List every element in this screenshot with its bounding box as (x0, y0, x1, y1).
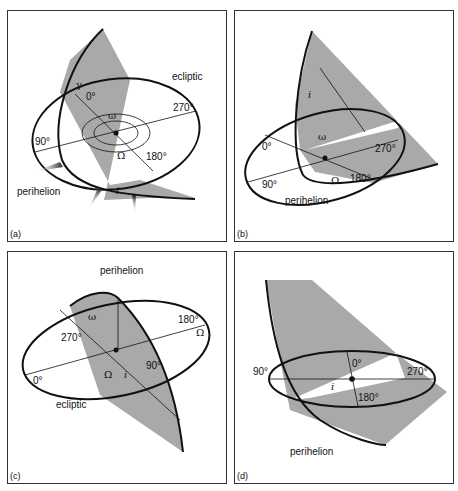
label-Omega-b: Ω (331, 175, 339, 186)
panel-a: ecliptic γ 0° 270° 90° 180° ω Ω i perihe… (8, 11, 227, 242)
label-180deg-c: 180° (178, 314, 199, 325)
panel-c: perihelion 180° 270° 90° 0° ω Ω Ω i ecli… (8, 252, 227, 484)
panel-b: 0° 270° 90° 180° ω Ω i perihelion (b) (234, 11, 453, 242)
label-perihelion-a: perihelion (17, 186, 60, 197)
label-90deg-d: 90° (253, 366, 268, 377)
panel-label-a: (a) (10, 229, 21, 239)
label-0deg-c: 0° (33, 375, 43, 386)
label-90deg-c: 90° (146, 360, 161, 371)
label-gamma-a: γ (76, 79, 82, 90)
label-i-c: i (124, 369, 127, 380)
panel-label-c: (c) (10, 471, 21, 481)
label-90deg-b: 90° (262, 179, 277, 190)
sun-dot-a (114, 131, 119, 136)
panel-label-d: (d) (237, 471, 248, 481)
sun-dot-c (114, 348, 119, 353)
label-0deg-d: 0° (352, 358, 362, 369)
label-perihelion-c: perihelion (100, 265, 143, 276)
label-ecliptic-c: ecliptic (56, 399, 87, 410)
panel-d: 0° 90° 270° 180° i perihelion (d) (235, 252, 454, 484)
label-omega-c: ω (88, 311, 96, 322)
label-omega-a: ω (108, 110, 116, 121)
label-180deg-a: 180° (146, 151, 167, 162)
orbital-elements-figure: ecliptic γ 0° 270° 90° 180° ω Ω i perihe… (0, 0, 458, 491)
label-Omega-right-c: Ω (196, 327, 204, 338)
label-perihelion-d: perihelion (290, 446, 333, 457)
label-0deg-a: 0° (86, 91, 96, 102)
label-270deg-c: 270° (61, 332, 82, 343)
panel-label-b: (b) (237, 229, 248, 239)
label-270deg-a: 270° (173, 102, 194, 113)
sun-dot-b (323, 156, 328, 161)
label-270deg-b: 270° (375, 143, 396, 154)
label-ecliptic-a: ecliptic (172, 71, 203, 82)
label-Omega-a: Ω (117, 150, 125, 161)
label-Omega-c: Ω (104, 369, 112, 380)
label-i-d: i (331, 381, 334, 392)
label-180deg-d: 180° (358, 392, 379, 403)
label-180deg-b: 180° (350, 173, 371, 184)
label-i-a: i (116, 185, 119, 196)
label-0deg-b: 0° (262, 141, 272, 152)
label-omega-b: ω (318, 131, 326, 142)
sun-dot-d (349, 376, 355, 382)
label-90deg-a: 90° (35, 136, 50, 147)
label-perihelion-b: perihelion (285, 195, 328, 206)
label-i-b: i (308, 89, 311, 100)
label-270deg-d: 270° (407, 366, 428, 377)
